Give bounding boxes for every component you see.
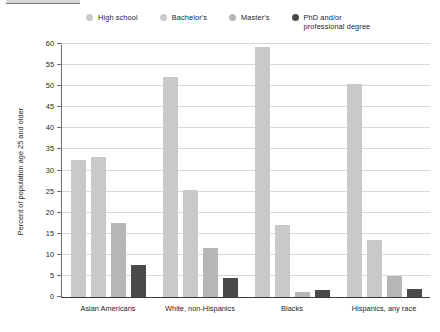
cropped-header-artifact xyxy=(6,0,80,4)
bar[interactable] xyxy=(315,290,330,297)
y-tick-label-20: 20 xyxy=(46,207,54,216)
bar[interactable] xyxy=(183,190,198,297)
y-tick-label-25: 25 xyxy=(46,186,54,195)
bar[interactable] xyxy=(255,47,270,297)
y-tick-label-30: 30 xyxy=(46,165,54,174)
y-tick-mark-60 xyxy=(57,43,62,44)
bar[interactable] xyxy=(111,223,126,297)
bar[interactable] xyxy=(347,84,362,297)
bar[interactable] xyxy=(367,240,382,297)
bar[interactable] xyxy=(407,289,422,297)
bar[interactable] xyxy=(203,248,218,297)
x-axis-category-label: Blacks xyxy=(281,304,303,313)
y-tick-label-10: 10 xyxy=(46,249,54,258)
bar-group-3: Hispanics, any race xyxy=(338,45,430,297)
plot-area: 051015202530354045505560 Asian Americans… xyxy=(61,45,430,298)
bar[interactable] xyxy=(163,77,178,297)
y-tick-label-35: 35 xyxy=(46,144,54,153)
legend-item-0[interactable]: High school xyxy=(86,13,138,22)
y-axis-title-text: Percent of population age 25 and older xyxy=(17,108,26,235)
y-tick-label-45: 45 xyxy=(46,102,54,111)
bar[interactable] xyxy=(387,276,402,297)
bar[interactable] xyxy=(295,292,310,297)
bar[interactable] xyxy=(275,225,290,297)
legend-label: High school xyxy=(98,13,138,22)
bar-group-1: White, non-Hispanics xyxy=(154,45,246,297)
x-axis-category-label: White, non-Hispanics xyxy=(165,304,235,313)
legend-item-1[interactable]: Bachelor's xyxy=(160,13,207,22)
bar[interactable] xyxy=(91,157,106,297)
legend-swatch-icon xyxy=(229,14,236,21)
gridline-60: 60 xyxy=(62,43,430,44)
x-axis-category-label: Hispanics, any race xyxy=(352,304,417,313)
y-tick-label-60: 60 xyxy=(46,39,54,48)
bar[interactable] xyxy=(223,278,238,297)
bar-groups: Asian AmericansWhite, non-HispanicsBlack… xyxy=(62,45,430,297)
chart-legend: High schoolBachelor'sMaster'sPhD and/or … xyxy=(86,13,438,37)
y-tick-label-55: 55 xyxy=(46,60,54,69)
legend-label: Bachelor's xyxy=(172,13,207,22)
y-tick-label-50: 50 xyxy=(46,81,54,90)
y-tick-label-15: 15 xyxy=(46,228,54,237)
y-tick-label-5: 5 xyxy=(50,270,54,279)
bar-group-2: Blacks xyxy=(246,45,338,297)
bar[interactable] xyxy=(71,160,86,297)
legend-label: Master's xyxy=(241,13,270,22)
y-axis-title: Percent of population age 25 and older xyxy=(14,45,28,298)
x-axis-category-label: Asian Americans xyxy=(80,304,135,313)
legend-swatch-icon xyxy=(160,14,167,21)
legend-swatch-icon xyxy=(86,14,93,21)
y-tick-label-40: 40 xyxy=(46,123,54,132)
y-tick-label-0: 0 xyxy=(50,292,54,301)
legend-item-2[interactable]: Master's xyxy=(229,13,270,22)
bar[interactable] xyxy=(131,265,146,297)
legend-item-3[interactable]: PhD and/or professional degree xyxy=(292,13,371,31)
legend-swatch-icon xyxy=(292,14,299,21)
legend-label: PhD and/or professional degree xyxy=(304,13,371,31)
bar-group-0: Asian Americans xyxy=(62,45,154,297)
